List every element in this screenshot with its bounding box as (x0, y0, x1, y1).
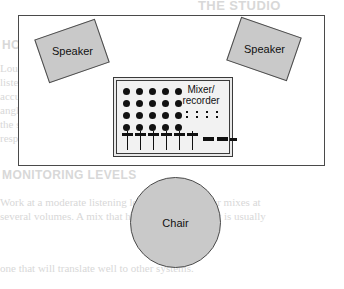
chair: Chair (130, 177, 221, 268)
mixer-bar (217, 137, 228, 141)
mixer-fader (187, 129, 198, 150)
mixer-fader (135, 129, 146, 150)
mixer-fader (148, 129, 159, 150)
mixer-knob (149, 88, 156, 95)
bleed-text: MONITORING LEVELS (2, 168, 137, 182)
mixer-knob (136, 112, 143, 119)
mixer-knob (149, 112, 156, 119)
mixer-led (206, 116, 208, 118)
mixer-bar (230, 138, 237, 141)
mixer-knob (136, 88, 143, 95)
mixer-knob (162, 112, 169, 119)
mixer-knob (149, 100, 156, 107)
mixer-recorder-unit: Mixer/ recorder (113, 77, 233, 157)
mixer-knob (123, 88, 130, 95)
mixer-knob (175, 112, 182, 119)
mixer-fader (174, 129, 185, 150)
mixer-fader (161, 129, 172, 150)
mixer-led (216, 116, 218, 118)
bleed-text: Work at a moderate listening level and c… (0, 196, 261, 208)
mixer-led (196, 116, 198, 118)
mixer-fader-row (122, 128, 232, 150)
chair-label: Chair (162, 217, 188, 229)
speaker-right-label: Speaker (244, 43, 285, 55)
mixer-knob (162, 100, 169, 107)
mixer-led (196, 111, 198, 113)
mixer-led (216, 111, 218, 113)
speaker-left-label: Speaker (52, 45, 93, 57)
mixer-bar (203, 137, 214, 141)
bleed-text: THE STUDIO (198, 0, 281, 13)
mixer-fader (122, 129, 133, 150)
mixer-label: Mixer/ recorder (177, 84, 225, 106)
mixer-led (206, 111, 208, 113)
mixer-label-line1: Mixer/ (177, 84, 225, 95)
mixer-knob (162, 88, 169, 95)
mixer-led-grid (182, 110, 222, 120)
diagram-canvas: THE STUDIO HOW STEREO WORKS Loudspeakers… (0, 0, 344, 289)
mixer-knob (123, 112, 130, 119)
mixer-led (186, 116, 188, 118)
mixer-label-line2: recorder (177, 95, 225, 106)
mixer-panel: Mixer/ recorder (116, 80, 230, 154)
mixer-led (186, 111, 188, 113)
mixer-knob (136, 100, 143, 107)
mixer-knob (123, 100, 130, 107)
